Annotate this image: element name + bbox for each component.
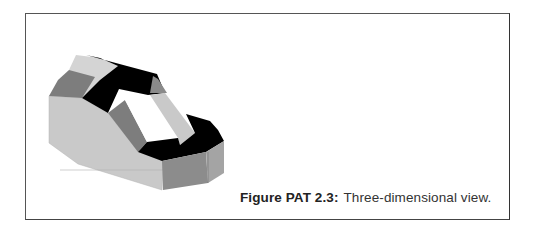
figure-label: Figure PAT 2.3:: [240, 190, 339, 205]
figure-caption-text: Three-dimensional view.: [344, 190, 492, 205]
figure-caption: Figure PAT 2.3:Three-dimensional view.: [240, 190, 491, 205]
